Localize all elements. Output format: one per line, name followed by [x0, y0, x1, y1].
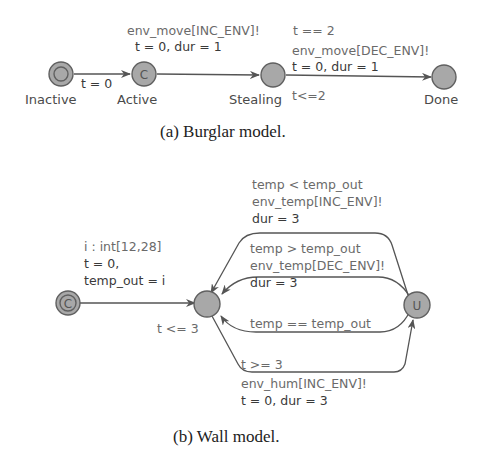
invariant-stealing: t<=2 [292, 88, 326, 103]
state-inactive [49, 62, 73, 86]
sync-stealing-done: env_move[DEC_ENV]! [292, 43, 429, 58]
invariant-wall: t <= 3 [157, 321, 199, 336]
update-dec-temp: dur = 3 [250, 275, 297, 290]
state-wall-main [194, 291, 220, 317]
wall-model: C U i : int[12,28] t = 0, temp_out = i t… [56, 177, 430, 446]
guard-stealing-done: t == 2 [293, 23, 335, 38]
guard-eq-temp: temp == temp_out [250, 316, 371, 331]
sync-inc-temp: env_temp[INC_ENV]! [252, 194, 383, 209]
update-hum: t = 0, dur = 3 [241, 393, 328, 408]
edge-active-stealing [157, 74, 259, 75]
update-init-1: t = 0, [84, 256, 119, 271]
state-label-active: Active [117, 92, 157, 107]
update-init-2: temp_out = i [84, 273, 165, 288]
state-wall-urgent: U [404, 292, 430, 318]
update-inactive-active: t = 0 [81, 76, 112, 91]
sync-dec-temp: env_temp[DEC_ENV]! [250, 258, 385, 273]
state-active: C [132, 62, 156, 86]
state-stealing [261, 63, 285, 87]
committed-mark: C [64, 297, 72, 311]
sync-active-stealing: env_move[INC_ENV]! [127, 23, 260, 38]
diagram-canvas: C Inactive Active Stealing Done t = 0 en… [0, 0, 480, 476]
guard-dec-temp: temp > temp_out [250, 241, 361, 256]
edge-stealing-done [286, 75, 431, 77]
burglar-model: C Inactive Active Stealing Done t = 0 en… [25, 23, 458, 141]
state-label-done: Done [424, 92, 458, 107]
guard-inc-temp: temp < temp_out [252, 177, 363, 192]
state-label-inactive: Inactive [25, 92, 77, 107]
update-active-stealing: t = 0, dur = 1 [135, 39, 222, 54]
update-stealing-done: t = 0, dur = 1 [292, 59, 379, 74]
state-label-stealing: Stealing [229, 92, 282, 107]
caption-wall: (b) Wall model. [173, 427, 279, 446]
committed-mark: C [140, 68, 148, 82]
update-inc-temp: dur = 3 [252, 211, 299, 226]
guard-hum: t >= 3 [241, 357, 283, 372]
state-done [432, 65, 456, 89]
sync-hum: env_hum[INC_ENV]! [241, 376, 367, 391]
state-wall-init: C [56, 291, 80, 315]
urgent-mark: U [413, 299, 422, 313]
select-init: i : int[12,28] [84, 239, 161, 254]
caption-burglar: (a) Burglar model. [160, 122, 286, 141]
